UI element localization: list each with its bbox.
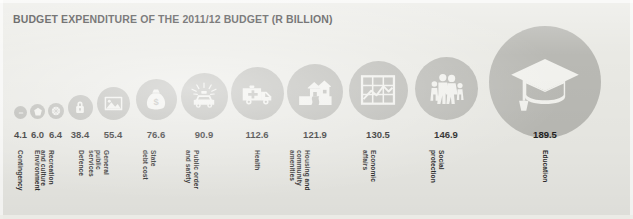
category-circle-defence [68, 95, 93, 120]
ball-icon [51, 106, 61, 116]
category-label-defence: Defence [77, 150, 85, 176]
category-label-education: Education [541, 150, 549, 182]
padlock-icon [72, 99, 88, 115]
category-circle-state-debt-cost: $ [136, 79, 177, 120]
family-icon [426, 68, 466, 108]
category-circle-general-public-services [97, 87, 130, 120]
category-label-housing-and-community-amenities: Housing and community amenities [288, 150, 311, 190]
value-label-defence: 38.4 [71, 129, 90, 140]
value-label-social-protection: 146.9 [434, 129, 458, 140]
category-circle-health [231, 67, 284, 120]
category-label-social-protection: Social protection [430, 150, 445, 183]
value-label-general-public-services: 55.4 [104, 129, 123, 140]
value-label-housing-and-community-amenities: 121.9 [303, 129, 327, 140]
category-circle-education [489, 26, 601, 138]
value-label-contingency: 4.1 [14, 129, 27, 140]
category-circle-social-protection [415, 57, 478, 120]
value-label-environment: 6.0 [31, 129, 44, 140]
leaf-icon [33, 107, 43, 117]
category-label-general-public-services: General public services [87, 150, 110, 177]
houses-icon [297, 74, 333, 110]
value-label-economic-affairs: 130.5 [366, 129, 390, 140]
category-circle-environment [30, 104, 45, 119]
category-label-state-debt-cost: State debt cost [142, 150, 157, 180]
category-circle-economic-affairs [349, 61, 408, 120]
frame-edge-left [0, 0, 3, 219]
value-label-health: 112.6 [245, 129, 268, 140]
frame-edge-top [0, 0, 633, 3]
category-label-health: Health [253, 150, 261, 170]
category-circle-public-order-and-safety [181, 73, 228, 120]
frame-edge-bottom [0, 215, 633, 219]
landscape-picture-icon [103, 93, 124, 114]
category-label-public-order-and-safety: Public order and safety [185, 150, 200, 189]
dash-icon [17, 109, 25, 117]
category-circle-recreation-and-culture [48, 103, 64, 119]
page-title: BUDGET EXPENDITURE OF THE 2011/12 BUDGET… [13, 13, 333, 25]
category-label-contingency: Contingency [16, 150, 24, 190]
ambulance-icon [240, 76, 274, 110]
category-circle-housing-and-community-amenities [287, 64, 343, 120]
money-bag-icon: $ [143, 87, 169, 113]
value-label-recreation-and-culture: 6.4 [49, 129, 62, 140]
budget-infographic: BUDGET EXPENDITURE OF THE 2011/12 BUDGET… [0, 0, 633, 219]
value-label-public-order-and-safety: 90.9 [195, 129, 214, 140]
value-label-education: 189.5 [533, 129, 557, 140]
category-circle-contingency [14, 106, 27, 119]
category-label-economic-affairs: Economic affairs [362, 150, 377, 182]
graduation-cap-icon [509, 46, 581, 118]
svg-text:$: $ [153, 97, 159, 107]
category-label-recreation-and-culture: Recreation and culture [40, 150, 55, 186]
value-label-state-debt-cost: 76.6 [147, 129, 166, 140]
police-car-icon [189, 82, 219, 112]
line-chart-icon [359, 71, 397, 109]
